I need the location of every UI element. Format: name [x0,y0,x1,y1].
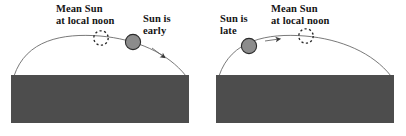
sun-early-label: Sun is early [143,13,171,37]
sun-early-label-line1: Sun is [143,13,171,25]
sun-late-label: Sun is late [220,13,248,37]
sun-late-label-line2: late [220,25,248,37]
equation-of-time-diagram: Mean Sun at local noon Sun is early Sun … [0,0,406,136]
ground-block-right [216,75,394,123]
mean-sun-label-right: Mean Sun at local noon [271,3,329,27]
mean-sun-label-left-line2: at local noon [56,15,114,27]
mean-sun-label-left: Mean Sun at local noon [56,3,114,27]
sun-path-arc-left [14,35,186,76]
ground-block-left [11,75,189,123]
mean-sun-dashed-circle-left [94,31,108,45]
panel-left-group [11,31,189,123]
sun-filled-circle-left [125,34,140,49]
sun-early-label-line2: early [143,25,171,37]
panel-right-group [216,29,394,123]
sun-filled-circle-right [241,38,256,53]
arc-direction-arrow-right [265,39,279,41]
arc-direction-arrow-left [152,48,164,57]
sun-late-label-line1: Sun is [220,13,248,25]
mean-sun-label-right-line1: Mean Sun [271,3,329,15]
mean-sun-label-left-line1: Mean Sun [56,3,114,15]
mean-sun-label-right-line2: at local noon [271,15,329,27]
